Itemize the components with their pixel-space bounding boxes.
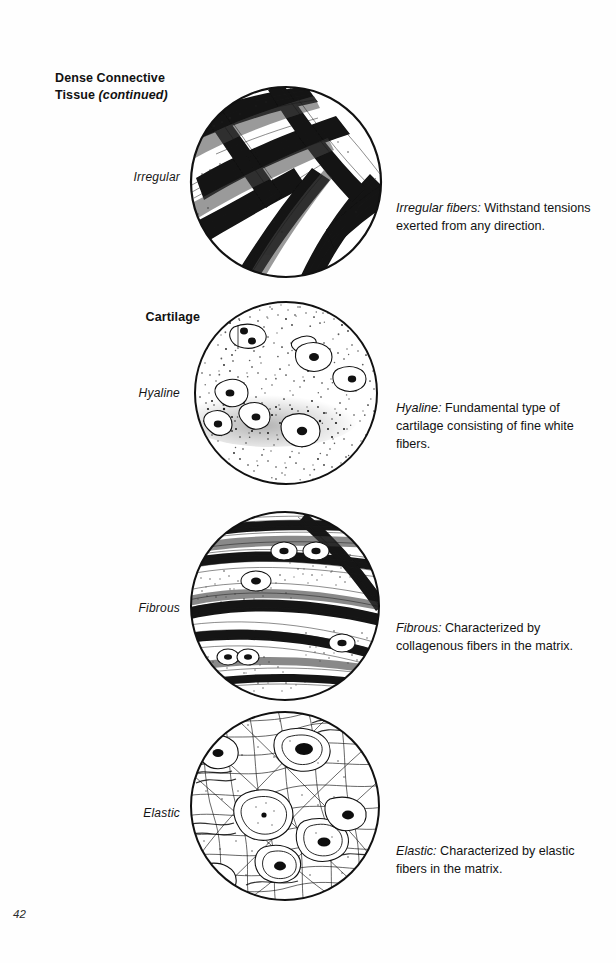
hyaline-cartilage-micrograph (190, 297, 382, 489)
row-label-hyaline: Hyaline (30, 386, 180, 400)
caption-term-fibrous: Fibrous: (396, 621, 442, 635)
caption-term-elastic: Elastic: (396, 844, 437, 858)
caption-hyaline: Hyaline: Fundamental type of cartilage c… (396, 400, 592, 454)
irregular-dense-connective-tissue-micrograph (186, 82, 386, 282)
row-label-elastic: Elastic (30, 806, 180, 820)
subsection-heading-cartilage: Cartilage (30, 310, 200, 324)
section-heading-line1: Dense Connective (55, 71, 165, 85)
caption-term-hyaline: Hyaline: (396, 401, 442, 415)
textbook-page: Dense Connective Tissue (continued) Irre… (0, 0, 616, 963)
row-label-fibrous: Fibrous (30, 601, 180, 615)
caption-irregular: Irregular fibers: Withstand tensions exe… (396, 200, 592, 236)
fibrous-cartilage-micrograph (186, 507, 384, 705)
elastic-cartilage-micrograph (186, 707, 384, 905)
row-label-irregular: Irregular (30, 170, 180, 184)
caption-elastic: Elastic: Characterized by elastic fibers… (396, 843, 592, 879)
caption-fibrous: Fibrous: Characterized by collagenous fi… (396, 620, 592, 656)
caption-term-irregular: Irregular fibers: (396, 201, 481, 215)
section-heading-line2: Tissue (55, 88, 95, 102)
section-heading-continued: (continued) (99, 88, 168, 102)
page-number: 42 (13, 908, 26, 920)
